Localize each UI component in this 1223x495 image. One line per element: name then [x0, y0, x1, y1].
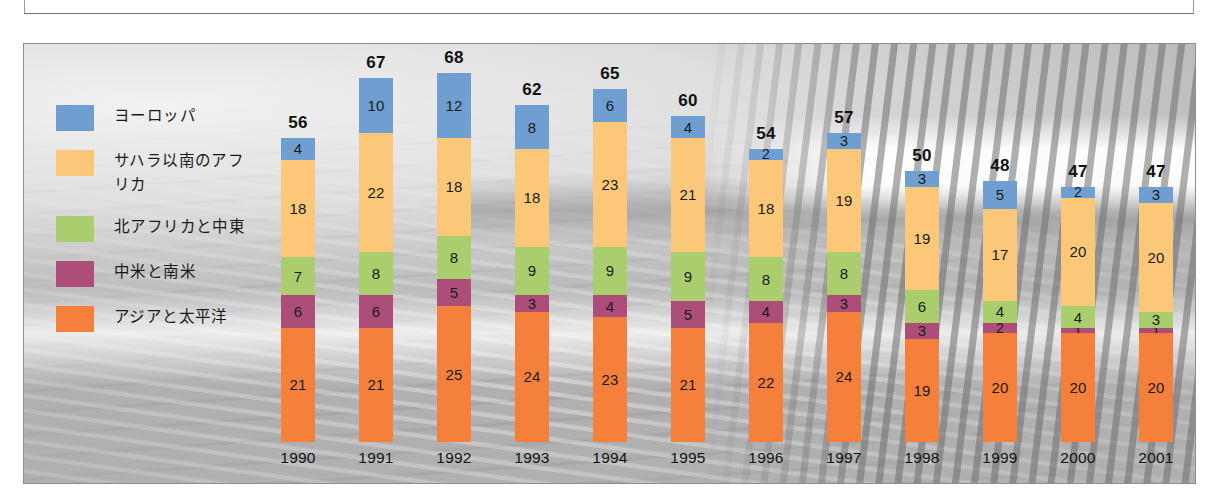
bar-total-label: 54 [756, 124, 776, 144]
bar-total-label: 67 [366, 53, 386, 73]
bar-segment: 25 [437, 306, 471, 442]
bar-group: 5731983241997 [827, 133, 861, 442]
bar-total-label: 68 [444, 48, 464, 68]
bar-segment: 5 [671, 301, 705, 328]
bar-segment: 4 [281, 138, 315, 160]
bar-segment: 8 [749, 257, 783, 300]
bar-segment: 8 [827, 252, 861, 295]
bar-segment: 18 [437, 138, 471, 236]
x-axis-tick-label: 2000 [1060, 449, 1095, 467]
bar-total-label: 62 [522, 80, 542, 100]
bar-group: 5641876211990 [281, 138, 315, 442]
bar-segment: 9 [671, 252, 705, 301]
bar-total-label: 56 [288, 113, 308, 133]
bar-total-label: 50 [912, 146, 932, 166]
bar-segment: 6 [359, 295, 393, 328]
x-axis-tick-label: 2001 [1138, 449, 1173, 467]
bar-segment: 8 [437, 236, 471, 279]
bar-segment: 3 [905, 171, 939, 187]
page-top-rule [24, 0, 1194, 14]
bar-segment: 23 [593, 317, 627, 442]
bar-segment: 21 [359, 328, 393, 442]
bar-segment: 5 [983, 181, 1017, 208]
bar-segment: 20 [1139, 333, 1173, 442]
x-axis-tick-label: 1995 [670, 449, 705, 467]
bar-segment: 9 [593, 247, 627, 296]
bar-stack: 3203120 [1139, 187, 1173, 442]
bar-segment: 24 [515, 312, 549, 442]
bar-segment: 3 [515, 295, 549, 311]
bar-total-label: 57 [834, 108, 854, 128]
bar-segment: 22 [749, 323, 783, 442]
chart-plot-area: 5641876211990671022862119916812188525199… [24, 44, 1195, 483]
bar-group: 68121885251992 [437, 73, 471, 442]
bar-segment: 21 [671, 138, 705, 252]
bar-group: 67102286211991 [359, 78, 393, 442]
bar-segment: 6 [281, 295, 315, 328]
bar-segment: 5 [437, 279, 471, 306]
bar-stack: 4187621 [281, 138, 315, 442]
bar-segment: 3 [1139, 187, 1173, 203]
bar-segment: 8 [359, 252, 393, 295]
bar-group: 6281893241993 [515, 105, 549, 442]
bar-stack: 2188422 [749, 149, 783, 442]
bar-total-label: 65 [600, 64, 620, 84]
bar-segment: 2 [1061, 187, 1095, 198]
bar-segment: 17 [983, 209, 1017, 301]
x-axis-tick-label: 1990 [280, 449, 315, 467]
x-axis-tick-label: 1996 [748, 449, 783, 467]
bar-segment: 3 [827, 295, 861, 311]
bar-segment: 12 [437, 73, 471, 138]
bar-stack: 10228621 [359, 78, 393, 442]
bar-segment: 20 [983, 333, 1017, 442]
bar-segment: 9 [515, 247, 549, 296]
bar-segment: 24 [827, 312, 861, 442]
bar-segment: 4 [1061, 306, 1095, 328]
bar-group: 4722041202000 [1061, 187, 1095, 442]
bar-segment: 22 [359, 133, 393, 252]
bar-stack: 4219521 [671, 116, 705, 442]
x-axis-tick-label: 1999 [982, 449, 1017, 467]
bar-stack: 5174220 [983, 181, 1017, 442]
x-axis-tick-label: 1994 [592, 449, 627, 467]
x-axis-tick-label: 1997 [826, 449, 861, 467]
bar-segment: 4 [593, 295, 627, 317]
bar-stack: 8189324 [515, 105, 549, 442]
bar-segment: 6 [905, 290, 939, 323]
bar-segment: 18 [281, 160, 315, 258]
bar-segment: 3 [905, 323, 939, 339]
x-axis-tick-label: 1993 [514, 449, 549, 467]
bar-total-label: 60 [678, 91, 698, 111]
bar-stack: 3198324 [827, 133, 861, 442]
bar-group: 5031963191998 [905, 171, 939, 442]
bar-segment: 19 [827, 149, 861, 252]
bar-group: 4851742201999 [983, 181, 1017, 442]
x-axis-tick-label: 1998 [904, 449, 939, 467]
bar-segment: 19 [905, 187, 939, 290]
bar-group: 6042195211995 [671, 116, 705, 442]
bar-segment: 7 [281, 257, 315, 295]
bar-group: 6562394231994 [593, 89, 627, 442]
chart-figure: ヨーロッパサハラ以南のアフ リカ北アフリカと中東中米と南米アジアと太平洋 564… [23, 43, 1196, 484]
bar-segment: 4 [749, 301, 783, 323]
bar-stack: 6239423 [593, 89, 627, 442]
bar-segment: 2 [983, 323, 1017, 334]
bar-stack: 12188525 [437, 73, 471, 442]
bar-segment: 10 [359, 78, 393, 132]
bar-segment: 3 [827, 133, 861, 149]
bar-segment: 4 [671, 116, 705, 138]
bar-segment: 23 [593, 122, 627, 247]
bar-segment: 3 [1139, 312, 1173, 328]
bar-segment: 19 [905, 339, 939, 442]
bar-group: 5421884221996 [749, 149, 783, 442]
bar-total-label: 47 [1146, 162, 1166, 182]
bar-group: 4732031202001 [1139, 187, 1173, 442]
bar-segment: 21 [281, 328, 315, 442]
x-axis-tick-label: 1992 [436, 449, 471, 467]
bar-stack: 3196319 [905, 171, 939, 442]
bar-segment: 21 [671, 328, 705, 442]
bar-segment: 4 [983, 301, 1017, 323]
bar-segment: 18 [749, 160, 783, 258]
bar-segment: 20 [1139, 203, 1173, 312]
bar-total-label: 47 [1068, 162, 1088, 182]
